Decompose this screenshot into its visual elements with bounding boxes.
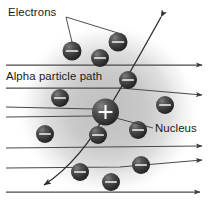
rutherford-atom-figure: Electrons Alpha particle path Nucleus	[0, 0, 218, 203]
label-nucleus: Nucleus	[155, 122, 197, 134]
electron	[91, 49, 109, 67]
nucleus	[92, 99, 119, 126]
label-alpha-particle-path: Alpha particle path	[6, 70, 102, 82]
electron	[51, 89, 69, 107]
label-electrons: Electrons	[8, 6, 57, 18]
electron	[119, 71, 137, 89]
electron	[63, 42, 82, 61]
electron	[132, 156, 150, 174]
electron	[71, 163, 89, 181]
electron	[109, 33, 128, 52]
electron	[102, 173, 120, 191]
atom-diagram-svg: Electrons Alpha particle path Nucleus	[0, 0, 218, 203]
electron	[89, 126, 107, 144]
electron	[156, 96, 174, 114]
electron	[36, 125, 54, 143]
